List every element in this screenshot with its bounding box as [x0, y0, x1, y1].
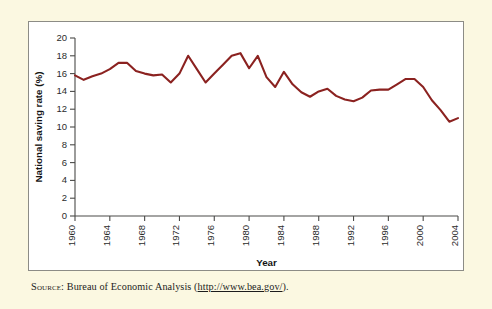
x-tick-label: 1984 [275, 225, 286, 246]
x-tick-label: 1988 [310, 225, 321, 246]
x-tick-label: 2004 [449, 225, 460, 246]
x-tick-label: 1964 [101, 225, 112, 246]
y-tick-label: 10 [56, 121, 67, 132]
x-tick-label: 1992 [345, 225, 356, 246]
line-chart: 0246810121416182019601964196819721976198… [28, 21, 464, 271]
y-axis-title: National saving rate (%) [33, 71, 44, 182]
y-tick-label: 12 [56, 103, 67, 114]
source-label: Source: [31, 281, 64, 292]
source-text: Bureau of Economic Analysis ( [64, 281, 197, 292]
x-tick-label: 1996 [379, 225, 390, 246]
y-tick-label: 4 [62, 174, 67, 185]
y-tick-label: 20 [56, 32, 67, 43]
source-url-link[interactable]: http://www.bea.gov/ [198, 281, 283, 292]
x-tick-label: 1972 [170, 225, 181, 246]
source-note: Source: Bureau of Economic Analysis (htt… [31, 281, 289, 292]
y-tick-label: 18 [56, 50, 67, 61]
y-tick-label: 6 [62, 157, 67, 168]
x-tick-label: 1980 [240, 225, 251, 246]
x-axis-title: Year [256, 257, 277, 268]
x-tick-label: 1968 [136, 225, 147, 246]
saving-rate-line [75, 53, 458, 122]
y-tick-label: 14 [56, 85, 67, 96]
y-tick-label: 2 [62, 192, 67, 203]
source-tail: ). [283, 281, 289, 292]
x-tick-label: 1960 [66, 225, 77, 246]
x-tick-label: 1976 [205, 225, 216, 246]
x-tick-label: 2000 [414, 225, 425, 246]
figure-container: 0246810121416182019601964196819721976198… [0, 0, 492, 309]
y-tick-label: 8 [62, 139, 67, 150]
y-tick-label: 16 [56, 68, 67, 79]
y-tick-label: 0 [62, 210, 67, 221]
